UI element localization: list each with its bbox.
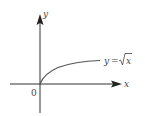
equation-equals: = (111, 56, 119, 66)
x-axis-label: x (124, 79, 129, 89)
equation-lhs: y (103, 56, 110, 66)
origin-label: 0 (31, 88, 37, 98)
sqrt-curve (40, 61, 100, 85)
equation-radicand: x (126, 56, 131, 66)
sqrt-graph: y x 0 y = x (0, 0, 145, 116)
y-axis-label: y (42, 9, 49, 19)
